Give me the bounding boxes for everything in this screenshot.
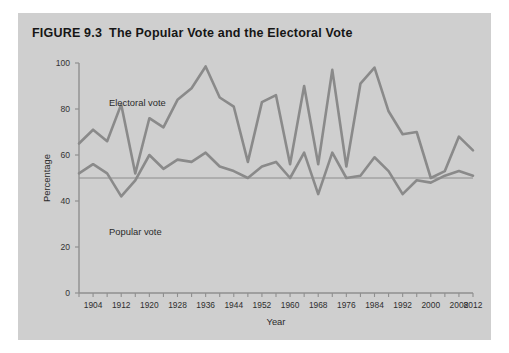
y-axis-tick-label: 40 (60, 196, 70, 206)
annotation-popular-vote: Popular vote (109, 226, 162, 237)
chart-plot-area: 020406080100 190419121920192819361944195… (18, 13, 491, 340)
y-axis-tick-label: 0 (65, 288, 70, 298)
x-axis-tick-label: 1960 (281, 300, 300, 310)
y-axis-tick-label: 80 (60, 104, 70, 114)
x-axis-title: Year (267, 316, 286, 327)
x-axis-tick-label: 1976 (337, 300, 356, 310)
x-axis-tick-label: 1992 (393, 300, 412, 310)
x-axis-tick-label: 1944 (224, 300, 243, 310)
y-axis-tick-label: 100 (56, 58, 71, 68)
figure-root: FIGURE 9.3The Popular Vote and the Elect… (0, 0, 509, 353)
x-axis-tick-label: 1912 (112, 300, 131, 310)
x-axis-tick-label: 1952 (253, 300, 272, 310)
x-axis-tick-labels: 1904191219201928193619441952196019681976… (84, 300, 483, 310)
x-axis-tick-label: 1928 (168, 300, 187, 310)
x-axis-tick-label: 1920 (140, 300, 159, 310)
figure-panel: FIGURE 9.3The Popular Vote and the Elect… (18, 13, 491, 340)
y-axis-tick-label: 60 (60, 150, 70, 160)
annotation-electoral-vote: Electoral vote (109, 97, 166, 108)
x-axis-tick-label: 1904 (84, 300, 103, 310)
y-axis-title: Percentage (41, 154, 52, 202)
y-axis-tick-labels: 020406080100 (56, 58, 71, 298)
popular-vote-electoral-vote-line-chart: 020406080100 190419121920192819361944195… (18, 13, 491, 340)
y-axis-tick-label: 20 (60, 242, 70, 252)
x-axis-tick-label: 2000 (421, 300, 440, 310)
x-axis-tick-label: 1936 (196, 300, 215, 310)
x-axis-tick-label: 1968 (309, 300, 328, 310)
x-axis-tick-label: 1984 (365, 300, 384, 310)
x-axis-tick-label: 2012 (464, 300, 483, 310)
